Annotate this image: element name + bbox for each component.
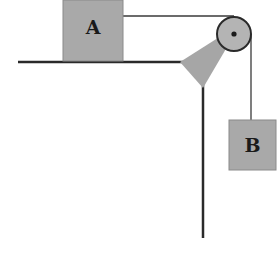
block-b: B xyxy=(229,120,276,170)
block-a-label: A xyxy=(85,16,101,38)
pulley-axle xyxy=(231,31,236,36)
pulley-diagram: A B xyxy=(0,0,279,255)
block-a: A xyxy=(63,0,123,61)
block-b-label: B xyxy=(244,134,260,156)
